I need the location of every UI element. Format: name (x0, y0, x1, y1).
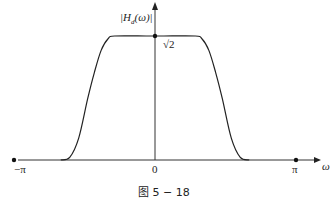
y-label-main: |H (120, 11, 131, 23)
pi-label: π (292, 163, 298, 175)
marker-point-0 (12, 158, 16, 162)
omega-label: ω (322, 160, 330, 172)
x-axis-arrow (314, 157, 321, 163)
y-axis-label: |Hd(ω)| (120, 11, 153, 26)
y-label-tail: (ω)| (134, 11, 152, 23)
y-axis-arrow (152, 2, 158, 10)
figure-caption: 图 5 − 18 (138, 183, 190, 199)
origin-label: 0 (152, 163, 158, 175)
chart-plot (0, 0, 331, 201)
neg-pi-label: −π (14, 163, 26, 175)
marker-point-2 (153, 34, 157, 38)
marker-point-1 (294, 158, 298, 162)
sqrt2-tick-label: √2 (163, 38, 175, 50)
